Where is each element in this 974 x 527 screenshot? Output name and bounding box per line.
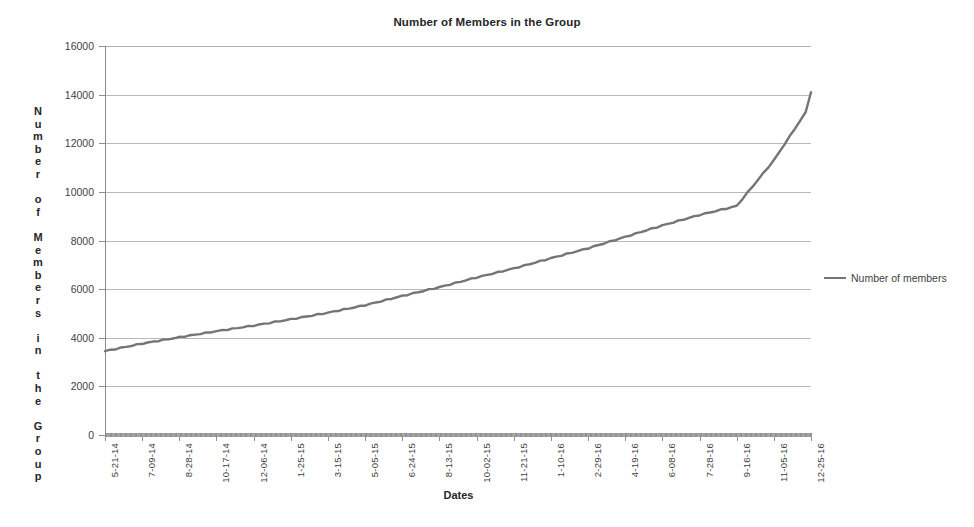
y-axis-tick-label: 16000	[24, 41, 94, 51]
y-axis-tick-label: 12000	[24, 138, 94, 148]
y-axis-tick	[99, 435, 105, 436]
x-axis-tick-label: 4-19-16	[629, 443, 640, 477]
y-axis-labels: 0200040006000800010000120001400016000	[18, 0, 94, 527]
x-axis-tick	[625, 437, 626, 441]
x-axis-tick-label: 12-06-14	[258, 443, 269, 483]
y-axis-tick-label: 14000	[24, 90, 94, 100]
y-axis-tick-label: 6000	[24, 284, 94, 294]
y-axis-tick	[99, 143, 105, 144]
x-axis-title: Dates	[105, 489, 812, 501]
x-axis-tick-label: 7-28-16	[704, 443, 715, 477]
x-axis-tick-label: 5-05-15	[369, 443, 380, 477]
x-axis-tick-label: 11-05-16	[778, 443, 789, 482]
x-axis-tick	[737, 437, 738, 441]
chart-title: Number of Members in the Group	[0, 16, 974, 28]
legend-swatch-icon	[824, 277, 846, 280]
y-axis-tick-label: 4000	[24, 333, 94, 343]
x-axis-tick	[105, 437, 106, 441]
chart-legend: Number of members	[824, 272, 947, 284]
x-axis-tick	[774, 437, 775, 441]
x-axis-tick	[700, 437, 701, 441]
x-axis-tick	[588, 437, 589, 441]
x-axis-tick	[514, 437, 515, 441]
x-axis-tick-label: 10-17-14	[220, 443, 231, 483]
x-axis-tick	[328, 437, 329, 441]
chart-container: Number of Members in the Group Number of…	[0, 0, 974, 527]
x-axis-tick-label: 9-16-16	[741, 443, 752, 477]
y-axis-tick	[99, 338, 105, 339]
x-axis-tick	[365, 437, 366, 441]
series-line-number-of-members	[105, 92, 811, 351]
x-axis-tick	[662, 437, 663, 441]
x-axis-tick	[439, 437, 440, 441]
x-axis-tick-label: 12-25-16	[815, 443, 826, 483]
x-axis-tick-label: 2-29-16	[592, 443, 603, 477]
y-axis-tick	[99, 46, 105, 47]
x-axis-tick	[811, 437, 812, 441]
x-axis-tick	[551, 437, 552, 441]
x-axis-tick-label: 1-10-16	[555, 443, 566, 477]
x-axis-tick-label: 8-28-14	[183, 443, 194, 477]
x-axis-tick-label: 8-13-15	[443, 443, 454, 477]
x-axis-tick-label: 11-21-15	[518, 443, 529, 482]
x-axis-tick	[179, 437, 180, 441]
legend-label: Number of members	[851, 272, 947, 284]
x-axis-tick-label: 6-08-16	[666, 443, 677, 477]
x-axis-tick	[291, 437, 292, 441]
y-axis-tick-label: 8000	[24, 236, 94, 246]
series-layer	[105, 46, 811, 435]
y-axis-tick	[99, 192, 105, 193]
x-axis-tick	[477, 437, 478, 441]
y-axis-tick-label: 0	[24, 430, 94, 440]
x-axis-tick-label: 1-25-15	[295, 443, 306, 477]
x-axis-tick	[142, 437, 143, 441]
x-axis-tick	[254, 437, 255, 441]
x-axis-tick	[402, 437, 403, 441]
x-axis-tick-label: 3-15-15	[332, 443, 343, 477]
x-axis-tick	[216, 437, 217, 441]
y-axis-tick	[99, 241, 105, 242]
x-axis-tick-label: 7-09-14	[146, 443, 157, 477]
y-axis-tick	[99, 386, 105, 387]
x-axis-tick-label: 6-24-15	[406, 443, 417, 477]
y-axis-tick-label: 2000	[24, 381, 94, 391]
y-axis-tick-label: 10000	[24, 187, 94, 197]
y-axis-tick	[99, 289, 105, 290]
x-axis-tick-label: 10-02-15	[481, 443, 492, 483]
x-axis-tick-label: 5-21-14	[109, 443, 120, 477]
y-axis-tick	[99, 95, 105, 96]
